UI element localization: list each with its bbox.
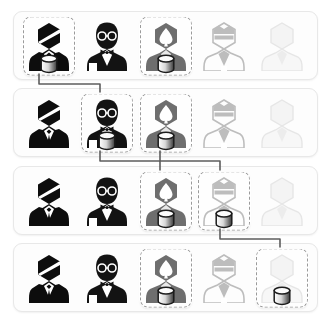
avatar-cell-r1-c1[interactable] bbox=[20, 14, 78, 77]
avatar-dark-suit-icon bbox=[27, 98, 71, 148]
avatar-visor-crown-icon bbox=[202, 98, 246, 148]
avatar-cell-r1-c5[interactable] bbox=[253, 14, 311, 77]
avatar-cell-r3-c2[interactable] bbox=[78, 169, 136, 232]
avatar-cell-r2-c4[interactable] bbox=[195, 91, 253, 154]
row-cells bbox=[14, 244, 317, 311]
avatar-cell-r4-c1[interactable] bbox=[20, 246, 78, 309]
avatar-glasses-bowtie-icon bbox=[85, 253, 129, 303]
avatar-dark-suit-icon bbox=[27, 253, 71, 303]
avatar-visor-crown-icon bbox=[202, 253, 246, 303]
avatar-visor-crown-icon bbox=[202, 21, 246, 71]
row-cells bbox=[14, 89, 317, 156]
avatar-cell-r1-c4[interactable] bbox=[195, 14, 253, 77]
avatar-cell-r3-c4[interactable] bbox=[195, 169, 253, 232]
avatar-cell-r2-c1[interactable] bbox=[20, 91, 78, 154]
avatar-row-2 bbox=[13, 88, 318, 157]
avatar-cell-r4-c4[interactable] bbox=[195, 246, 253, 309]
avatar-cell-r4-c5[interactable] bbox=[253, 246, 311, 309]
avatar-blank-faint-icon bbox=[260, 98, 304, 148]
avatar-row-3 bbox=[13, 166, 318, 235]
avatar-visor-crown-icon bbox=[202, 176, 246, 226]
avatar-dark-suit-icon bbox=[27, 176, 71, 226]
avatar-cell-r2-c3[interactable] bbox=[136, 91, 194, 154]
avatar-cell-r2-c5[interactable] bbox=[253, 91, 311, 154]
avatar-blank-faint-icon bbox=[260, 176, 304, 226]
avatar-cell-r2-c2[interactable] bbox=[78, 91, 136, 154]
row-cells bbox=[14, 167, 317, 234]
avatar-flow-diagram bbox=[0, 0, 329, 323]
avatar-glasses-bowtie-icon bbox=[85, 176, 129, 226]
avatar-glasses-bowtie-icon bbox=[85, 21, 129, 71]
avatar-cell-r1-c3[interactable] bbox=[136, 14, 194, 77]
avatar-cell-r3-c1[interactable] bbox=[20, 169, 78, 232]
avatar-cell-r3-c3[interactable] bbox=[136, 169, 194, 232]
avatar-blank-faint-icon bbox=[260, 253, 304, 303]
avatar-row-4 bbox=[13, 243, 318, 312]
row-cells bbox=[14, 12, 317, 79]
avatar-blank-faint-icon bbox=[260, 21, 304, 71]
avatar-cell-r3-c5[interactable] bbox=[253, 169, 311, 232]
avatar-cell-r4-c2[interactable] bbox=[78, 246, 136, 309]
avatar-spade-head-icon bbox=[144, 253, 188, 303]
avatar-cell-r4-c3[interactable] bbox=[136, 246, 194, 309]
avatar-cell-r1-c2[interactable] bbox=[78, 14, 136, 77]
avatar-spade-head-icon bbox=[144, 98, 188, 148]
avatar-spade-head-icon bbox=[144, 21, 188, 71]
avatar-dark-suit-icon bbox=[27, 21, 71, 71]
avatar-row-1 bbox=[13, 11, 318, 80]
avatar-glasses-bowtie-icon bbox=[85, 98, 129, 148]
avatar-spade-head-icon bbox=[144, 176, 188, 226]
